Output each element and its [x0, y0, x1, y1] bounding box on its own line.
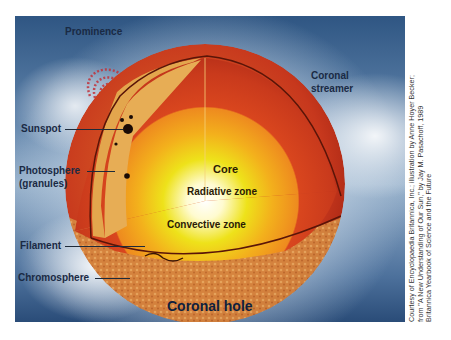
label-convective-zone: Convective zone — [167, 219, 246, 231]
image-credit: Courtesy of Encyclopaedia Britannica, In… — [408, 12, 434, 322]
label-photosphere-line1: Photosphere — [19, 165, 80, 177]
leader-filament — [65, 246, 145, 247]
label-sunspot: Sunspot — [21, 123, 61, 135]
label-core: Core — [213, 163, 238, 175]
label-filament: Filament — [20, 240, 61, 252]
label-coronal-streamer-line1: Coronal — [311, 70, 349, 82]
label-coronal-streamer-line2: streamer — [311, 83, 353, 95]
credit-line-3: Britannica Yearbook of Science and the F… — [425, 12, 434, 322]
label-radiative-zone: Radiative zone — [187, 186, 257, 198]
label-chromosphere: Chromosphere — [18, 272, 89, 284]
label-photosphere-line2: (granules) — [19, 178, 67, 190]
leader-sunspot — [65, 129, 123, 130]
leader-chromosphere — [95, 278, 130, 279]
sun-diagram-frame: Prominence Coronal streamer Sunspot Phot… — [15, 16, 405, 322]
leader-photosphere — [87, 171, 115, 172]
label-prominence: Prominence — [65, 26, 122, 38]
sun-sphere — [65, 44, 345, 322]
label-coronal-hole: Coronal hole — [167, 300, 253, 312]
